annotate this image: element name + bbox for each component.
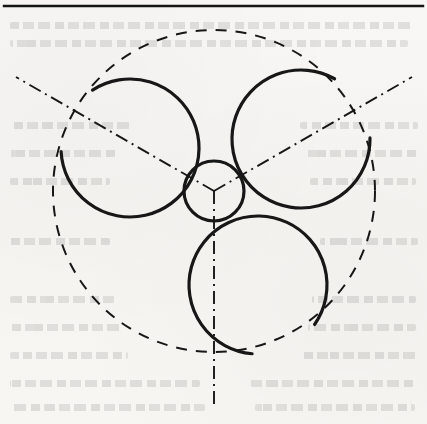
lobe-upper-right: [232, 70, 370, 208]
figure-page: Three-lobe rotor profile with pitch circ…: [0, 0, 427, 424]
axis-upper-left: [16, 77, 214, 191]
axis-lines: [16, 77, 412, 406]
lobe-lower-right: [189, 216, 327, 354]
rotor-diagram: [0, 0, 427, 424]
axis-upper-right: [214, 77, 412, 191]
